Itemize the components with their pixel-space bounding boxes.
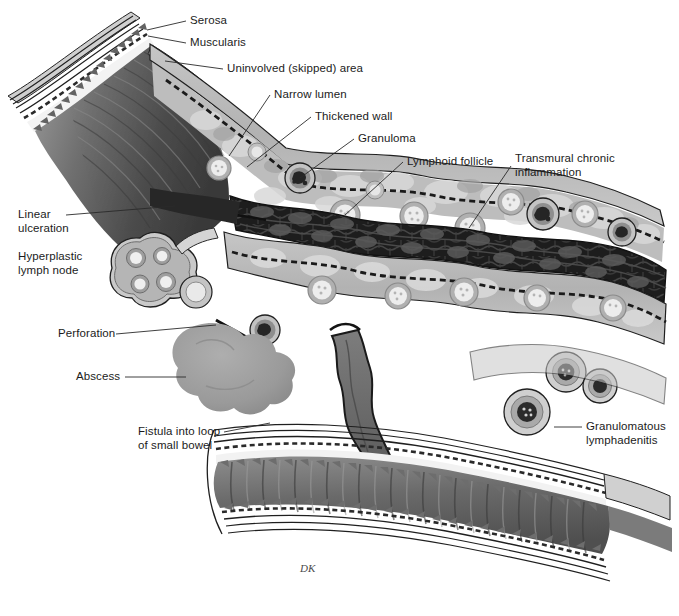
- lymphoid-follicle: [154, 248, 171, 265]
- label-granuloma: Granuloma: [358, 132, 416, 146]
- lymphoid-follicle: [572, 201, 598, 227]
- label-narrow-lumen: Narrow lumen: [274, 88, 347, 102]
- label-uninvolved-skipped-area: Uninvolved (skipped) area: [227, 62, 363, 76]
- fistula-proximal-opening: [330, 324, 360, 330]
- label-thickened-wall: Thickened wall: [315, 110, 392, 124]
- right-mesentery-band: [470, 345, 666, 404]
- lymphoid-follicle: [498, 189, 524, 215]
- label-abscess: Abscess: [76, 370, 120, 384]
- lymphoid-follicle: [131, 275, 149, 293]
- lymphoid-follicle: [524, 285, 550, 311]
- label-serosa: Serosa: [190, 14, 227, 28]
- artist-signature: DK: [300, 562, 315, 574]
- label-perforation: Perforation: [58, 327, 115, 341]
- label-linear-ulceration: Linear ulceration: [18, 208, 69, 235]
- granuloma: [608, 218, 636, 246]
- lymphoid-follicle: [308, 276, 336, 304]
- lower-small-bowel-loop: [207, 424, 610, 581]
- label-hyperplastic-lymph-node: Hyperplastic lymph node: [18, 250, 82, 277]
- label-lymphoid-follicle: Lymphoid follicle: [407, 155, 493, 169]
- lymphoid-follicle: [157, 273, 176, 292]
- hyperplastic-lymph-node: [110, 228, 218, 308]
- lower-loop-right-extension: [604, 474, 672, 552]
- label-muscularis-leader: [148, 36, 186, 43]
- granuloma: [527, 198, 559, 230]
- label-transmural-chronic-inflammation: Transmural chronic inflammation: [515, 152, 615, 179]
- lymphoid-follicle: [366, 181, 384, 199]
- illustration-figure: SerosaMuscularisUninvolved (skipped) are…: [0, 0, 679, 616]
- lymphoid-follicle: [600, 295, 626, 321]
- satellite-lymph-node: [180, 276, 212, 308]
- lymphoid-follicle: [450, 278, 478, 306]
- lymphoid-follicle: [207, 156, 231, 180]
- label-serosa-leader: [147, 21, 186, 30]
- label-muscularis: Muscularis: [190, 36, 246, 50]
- lymphoid-follicle: [385, 283, 411, 309]
- label-fistula-into-loop-of-small-bowel: Fistula into loop of small bowel: [138, 425, 220, 452]
- lymphoid-follicle: [248, 143, 266, 161]
- lymphoid-follicle: [127, 249, 146, 268]
- granulomatous-node: [504, 389, 550, 435]
- label-granulomatous-lymphadenitis: Granulomatous lymphadenitis: [586, 420, 666, 447]
